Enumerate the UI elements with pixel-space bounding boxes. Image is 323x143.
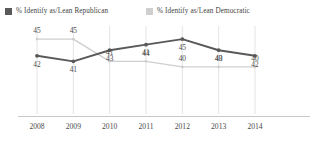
value-label-democratic-2008: 45 <box>33 27 40 35</box>
data-point-republican-2009[interactable] <box>71 59 75 63</box>
chart-legend: % Identify as/Lean Republican % Identify… <box>0 5 323 18</box>
x-tick-2008: 2008 <box>29 122 44 132</box>
x-tick-2010: 2010 <box>102 122 117 132</box>
x-tick-2009: 2009 <box>66 122 81 132</box>
x-axis-line <box>18 116 310 117</box>
chart-container: % Identify as/Lean Republican % Identify… <box>0 0 323 143</box>
value-label-republican-2012: 45 <box>179 44 186 52</box>
data-point-republican-2012[interactable] <box>180 37 184 41</box>
plot-svg <box>0 22 323 114</box>
legend-swatch-icon-democratic <box>146 8 153 15</box>
legend-label-democratic: % Identify as/Lean Democratic <box>157 7 250 16</box>
data-point-republican-2011[interactable] <box>144 43 148 47</box>
data-point-democratic-2009[interactable] <box>72 38 75 41</box>
x-tick-2011: 2011 <box>139 122 154 132</box>
legend-label-republican: % Identify as/Lean Republican <box>16 7 108 16</box>
value-label-democratic-2009: 45 <box>70 27 77 35</box>
data-point-republican-2008[interactable] <box>35 54 39 58</box>
data-point-republican-2013[interactable] <box>217 48 221 52</box>
x-tick-2012: 2012 <box>175 122 190 132</box>
value-label-democratic-2011: 41 <box>142 49 149 57</box>
data-point-democratic-2012[interactable] <box>181 65 184 68</box>
value-label-republican-2008: 42 <box>33 61 40 69</box>
legend-item-democratic[interactable]: % Identify as/Lean Democratic <box>146 5 250 17</box>
clipped-header-text <box>6 0 126 4</box>
x-axis-tick-labels: 2008200920102011201220132014 <box>0 122 323 136</box>
x-tick-2014: 2014 <box>247 122 262 132</box>
value-label-democratic-2014: 40 <box>251 55 258 63</box>
value-label-democratic-2013: 40 <box>215 55 222 63</box>
value-label-republican-2009: 41 <box>70 66 77 74</box>
plot-area <box>0 22 323 114</box>
x-tick-2013: 2013 <box>211 122 226 132</box>
legend-item-republican[interactable]: % Identify as/Lean Republican <box>5 5 108 17</box>
value-label-democratic-2012: 40 <box>179 55 186 63</box>
value-label-democratic-2010: 41 <box>106 49 113 57</box>
data-point-democratic-2008[interactable] <box>36 38 39 41</box>
data-point-democratic-2013[interactable] <box>217 65 220 68</box>
data-point-democratic-2011[interactable] <box>145 60 148 63</box>
legend-swatch-icon-republican <box>5 8 12 15</box>
